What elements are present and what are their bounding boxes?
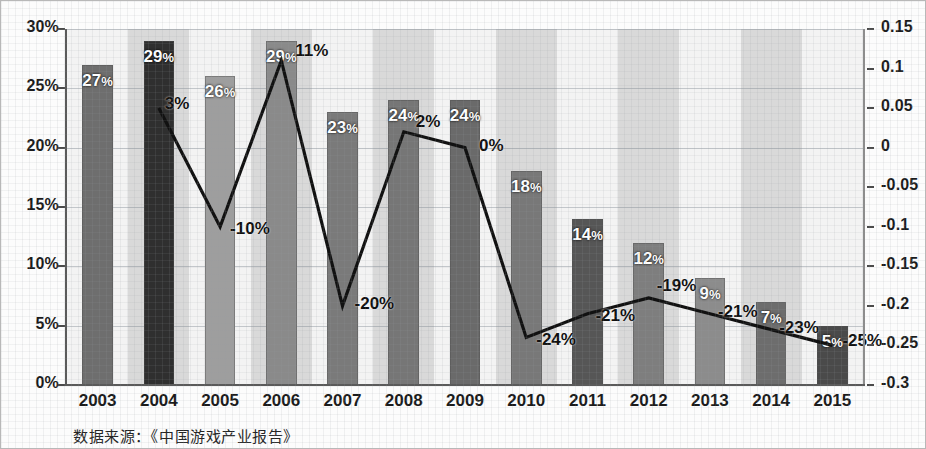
left-axis-spine [65, 29, 67, 385]
left-axis-tick-mark [58, 206, 65, 208]
left-axis-tick-mark [58, 325, 65, 327]
line-value-label: -19% [657, 276, 697, 296]
line-value-label: 3% [165, 94, 190, 114]
category-tick-label: 2013 [691, 391, 729, 411]
line-value-label: -20% [355, 294, 395, 314]
category-tick-label: 2006 [262, 391, 300, 411]
left-axis-tick-mark [58, 28, 65, 30]
right-axis-tick-mark [867, 305, 874, 307]
right-axis-tick-mark [867, 186, 874, 188]
line-value-label: -23% [779, 318, 819, 338]
category-tick-label: 2012 [630, 391, 668, 411]
left-axis-tick-label: 15% [7, 196, 59, 214]
right-axis-tick-label: -0.05 [881, 176, 918, 194]
line-value-label: -10% [230, 219, 270, 239]
right-axis-tick-mark [867, 344, 874, 346]
category-axis-spine [65, 384, 865, 386]
line-value-label: -24% [536, 330, 576, 350]
line-value-label: -21% [718, 302, 758, 322]
category-tick-label: 2003 [79, 391, 117, 411]
line-value-label: 2% [416, 112, 441, 132]
right-axis-tick-mark [867, 226, 874, 228]
right-axis-tick-mark [867, 107, 874, 109]
right-axis-tick-label: -0.25 [881, 334, 918, 352]
right-axis-tick-label: 0.15 [881, 18, 913, 36]
chart-figure: 0%5%10%15%20%25%30% -0.3-0.25-0.2-0.15-0… [0, 0, 926, 449]
right-axis-spine [863, 29, 865, 385]
right-axis-tick-mark [867, 265, 874, 267]
right-axis-tick-label: -0.1 [881, 216, 909, 234]
left-axis-tick-label: 30% [7, 18, 59, 36]
left-axis-tick-mark [58, 147, 65, 149]
line-series-path [67, 29, 863, 385]
category-axis: 2003200420052006200720082009201020112012… [67, 391, 863, 421]
category-tick-label: 2015 [813, 391, 851, 411]
left-axis-tick-label: 0% [7, 374, 59, 392]
category-tick-label: 2009 [446, 391, 484, 411]
category-tick-label: 2011 [569, 391, 606, 411]
right-axis-tick-label: -0.3 [881, 374, 909, 392]
right-axis-tick-label: 0 [881, 137, 890, 155]
right-axis-tick-mark [867, 28, 874, 30]
right-axis-tick-label: -0.15 [881, 255, 918, 273]
source-note: 数据来源：《中国游戏产业报告》 [73, 425, 299, 446]
left-axis-tick-mark [58, 265, 65, 267]
left-value-axis: 0%5%10%15%20%25%30% [1, 1, 59, 449]
left-axis-tick-mark [58, 384, 65, 386]
left-axis-tick-label: 20% [7, 137, 59, 155]
line-value-label: -21% [595, 306, 635, 326]
line-value-label: 0% [479, 136, 504, 156]
category-tick-label: 2014 [752, 391, 790, 411]
left-axis-tick-label: 25% [7, 77, 59, 95]
right-axis-tick-mark [867, 68, 874, 70]
right-axis-tick-label: -0.2 [881, 295, 909, 313]
category-tick-label: 2010 [507, 391, 545, 411]
category-tick-label: 2007 [324, 391, 362, 411]
category-tick-label: 2008 [385, 391, 423, 411]
left-axis-tick-label: 5% [7, 315, 59, 333]
category-tick-label: 2005 [201, 391, 239, 411]
right-axis-tick-mark [867, 147, 874, 149]
right-axis-tick-label: 0.05 [881, 97, 913, 115]
plot-area: 3%-10%11%-20%2%0%-24%-21%-19%-21%-23%-25… [67, 29, 863, 385]
category-tick-label: 2004 [140, 391, 178, 411]
left-axis-tick-label: 10% [7, 255, 59, 273]
right-value-axis: -0.3-0.25-0.2-0.15-0.1-0.0500.050.10.15 [867, 1, 926, 449]
line-value-label: 11% [295, 41, 328, 61]
right-axis-tick-label: 0.1 [881, 58, 904, 76]
left-axis-tick-mark [58, 87, 65, 89]
right-axis-tick-mark [867, 384, 874, 386]
